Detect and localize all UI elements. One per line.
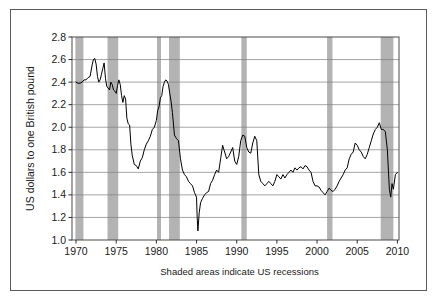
y-tick-label-7: 2.4: [51, 76, 66, 88]
y-tick-label-3: 1.6: [51, 166, 66, 178]
recession-band-6: [381, 37, 394, 240]
plot-area-border: [72, 37, 399, 240]
recession-band-1: [108, 37, 119, 240]
x-tick-label-5: 1995: [265, 245, 289, 257]
recession-shading-group: [75, 37, 393, 240]
chart-figure: 1.01.21.41.61.82.02.22.42.62.8 197019751…: [0, 0, 439, 302]
x-tick-label-0: 1970: [64, 245, 88, 257]
y-tick-label-1: 1.2: [51, 211, 66, 223]
y-tick-label-5: 2.0: [51, 121, 66, 133]
series-line-0: [76, 58, 397, 231]
recession-band-3: [169, 37, 180, 240]
x-tick-label-6: 2000: [305, 245, 329, 257]
x-tick-label-4: 1990: [225, 245, 249, 257]
x-tick-label-3: 1985: [185, 245, 209, 257]
recession-band-2: [157, 37, 161, 240]
x-tick-label-7: 2005: [346, 245, 370, 257]
y-tick-label-6: 2.2: [51, 98, 66, 110]
x-tick-label-1: 1975: [105, 245, 129, 257]
recession-band-0: [75, 37, 83, 240]
y-tick-label-2: 1.4: [51, 188, 66, 200]
y-axis-label: US dollars to one British pound: [24, 66, 36, 211]
data-line-group: [76, 58, 397, 231]
plot-frame: [72, 37, 399, 240]
x-tick-label-2: 1980: [145, 245, 169, 257]
recession-band-4: [241, 37, 246, 240]
recession-band-5: [327, 37, 332, 240]
y-tick-label-0: 1.0: [51, 234, 66, 246]
y-tick-label-4: 1.8: [51, 143, 66, 155]
y-tick-label-8: 2.6: [51, 53, 66, 65]
x-tick-label-8: 2010: [386, 245, 410, 257]
chart-caption: Shaded areas indicate US recessions: [160, 266, 319, 277]
x-axis-tick-group: 197019751980198519901995200020052010: [64, 240, 409, 257]
y-axis-tick-group: 1.01.21.41.61.82.02.22.42.62.8: [51, 31, 72, 246]
y-tick-label-9: 2.8: [51, 31, 66, 43]
gridline-group: [72, 60, 399, 218]
